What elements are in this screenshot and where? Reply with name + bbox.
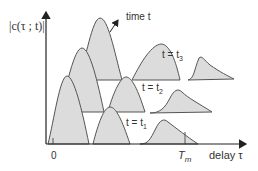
x-axis-label: delay τ <box>209 150 243 161</box>
snapshot-label-text: t = t <box>142 82 159 93</box>
tm-text: T <box>178 149 185 161</box>
time-arrow <box>110 20 118 32</box>
time-arrow-label: time t <box>126 12 150 22</box>
snapshot-label-t3: t = t3 <box>162 50 183 62</box>
snapshot-label-t2: t = t2 <box>142 83 163 95</box>
snapshot-label-t1: t = t1 <box>126 118 147 130</box>
snapshot-label-sub: 3 <box>179 55 183 62</box>
time-arrow-text: time t <box>126 11 150 22</box>
snapshot-label-text: t = t <box>126 117 143 128</box>
snapshot-label-sub: 2 <box>159 88 163 95</box>
y-axis-label: |c(τ ; t)| <box>9 20 45 32</box>
snapshot-label-text: t = t <box>162 49 179 60</box>
snapshot-label-sub: 1 <box>143 123 147 130</box>
snapshot-t3 <box>78 18 234 80</box>
tm-sub: m <box>185 155 192 164</box>
x-origin-label: 0 <box>51 151 57 161</box>
tm-marker-label: Tm <box>178 150 191 164</box>
